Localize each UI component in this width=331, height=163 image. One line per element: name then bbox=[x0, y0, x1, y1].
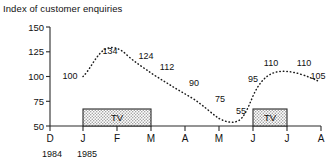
x-tick-d-1984: D bbox=[46, 133, 53, 144]
point-label-90: 90 bbox=[189, 78, 199, 88]
point-label-134: 134 bbox=[102, 46, 117, 56]
chart-plot-area: 150 125 100 75 50 D J F M A M J J A bbox=[0, 0, 331, 163]
x-tick-a-aug: A bbox=[318, 133, 325, 144]
y-tick-125: 125 bbox=[28, 46, 44, 57]
x-tick-j-jun: J bbox=[251, 133, 256, 144]
point-label-75: 75 bbox=[215, 94, 225, 104]
x-tick-f-feb: F bbox=[114, 133, 120, 144]
x-tick-j-jul: J bbox=[285, 133, 290, 144]
y-tick-150: 150 bbox=[28, 22, 44, 33]
point-label-55: 55 bbox=[236, 106, 246, 116]
tv-campaign-box-1: TV bbox=[83, 109, 151, 126]
y-tick-75: 75 bbox=[33, 96, 44, 107]
y-tick-50: 50 bbox=[33, 121, 44, 132]
year-label-1984: 1984 bbox=[42, 149, 62, 159]
y-tick-100: 100 bbox=[28, 71, 44, 82]
data-point-labels: 100 134 124 112 90 75 55 95 110 110 105 bbox=[62, 46, 325, 116]
year-label-1985: 1985 bbox=[77, 149, 97, 159]
point-label-95: 95 bbox=[248, 74, 258, 84]
point-label-100: 100 bbox=[62, 71, 77, 81]
x-axis: D J F M A M J J A 1984 1985 bbox=[42, 126, 325, 159]
x-tick-j-jan: J bbox=[81, 133, 86, 144]
x-tick-m-may: M bbox=[215, 133, 223, 144]
point-label-105: 105 bbox=[310, 71, 325, 81]
tv-box-2-label: TV bbox=[264, 112, 277, 123]
x-tick-a-apr: A bbox=[182, 133, 189, 144]
point-label-124: 124 bbox=[138, 51, 153, 61]
chart-container: Index of customer enquiries 150 125 100 … bbox=[0, 0, 331, 163]
y-axis: 150 125 100 75 50 bbox=[28, 22, 50, 132]
tv-campaign-box-2: TV bbox=[253, 109, 287, 126]
point-label-110-b: 110 bbox=[297, 58, 311, 68]
tv-box-1-label: TV bbox=[111, 112, 124, 123]
point-label-112: 112 bbox=[160, 62, 174, 72]
x-tick-m-mar: M bbox=[147, 133, 155, 144]
point-label-110-a: 110 bbox=[264, 58, 278, 68]
